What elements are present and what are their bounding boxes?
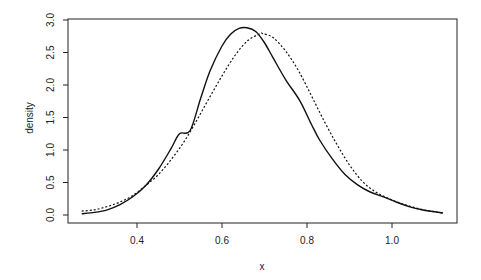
density-dashed-line (82, 33, 443, 213)
y-tick-label: 1.0 (45, 143, 56, 157)
y-tick-label: 2.5 (45, 45, 56, 59)
x-tick-label: 0.4 (130, 235, 144, 246)
x-tick-label: 1.0 (385, 235, 399, 246)
plot-frame (68, 19, 457, 223)
x-tick-label: 0.8 (300, 235, 314, 246)
y-tick-label: 2.0 (45, 78, 56, 92)
series-layer (82, 27, 443, 213)
y-tick-label: 1.5 (45, 110, 56, 124)
density-chart: 0.40.60.81.0 0.00.51.01.52.02.53.0 x den… (0, 0, 481, 280)
x-axis: 0.40.60.81.0 (130, 223, 399, 246)
y-tick-label: 0.0 (45, 208, 56, 222)
y-tick-label: 0.5 (45, 175, 56, 189)
density-solid-line (82, 27, 443, 213)
y-tick-label: 3.0 (45, 13, 56, 27)
x-tick-label: 0.6 (215, 235, 229, 246)
x-axis-label: x (260, 261, 265, 272)
y-axis: 0.00.51.01.52.02.53.0 (45, 13, 68, 222)
y-axis-label: density (24, 102, 35, 134)
